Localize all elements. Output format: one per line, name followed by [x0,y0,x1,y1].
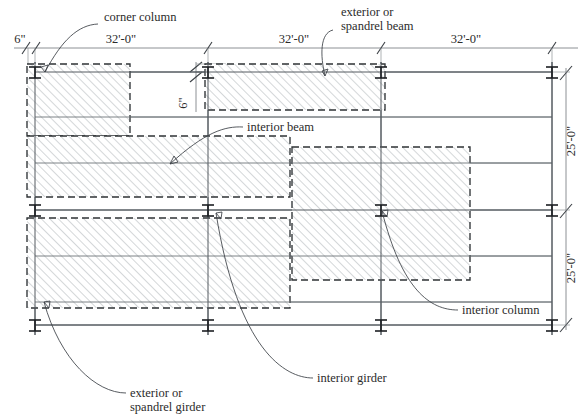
tributary-spandrel-beam [205,64,385,110]
dim-6in-vertical-text: 6" [176,97,190,108]
dim-bay-1-text: 32'-0" [106,32,136,46]
spandrel-beam-label-line2: spandrel beam [341,19,414,33]
dim-25ft-upper-text: 25'-0" [564,126,578,156]
dim-bay-2-text: 32'-0" [279,32,309,46]
dim-6in-horizontal-text: 6" [14,32,25,46]
tributary-interior-beam [27,136,290,197]
interior-girder-label: interior girder [317,371,388,385]
tributary-corner-column [27,64,130,136]
spandrel-girder-label-line2: spandrel girder [130,400,206,414]
dim-label-bay-1: 32'-0" [106,32,136,46]
dim-label-bay-2: 32'-0" [279,32,309,46]
interior-column-label: interior column [462,303,540,317]
framing-plan-drawing: 6" 32'-0" 32'-0" 32'-0" 6" 25'-0" 25'-0" [0,0,588,418]
spandrel-girder-label-line1: exterior or [130,386,183,400]
corner-column-label: corner column [104,10,177,24]
dim-label-6in-horizontal: 6" [14,32,25,46]
dim-label-bay-3: 32'-0" [451,32,481,46]
framing-plan-canvas: 6" 32'-0" 32'-0" 32'-0" 6" 25'-0" 25'-0" [0,0,588,418]
interior-beam-label: interior beam [247,120,314,134]
dim-25ft-lower-text: 25'-0" [564,253,578,283]
tributary-spandrel-girder [27,218,290,308]
spandrel-beam-label-line1: exterior or [341,5,394,19]
dim-bay-3-text: 32'-0" [451,32,481,46]
